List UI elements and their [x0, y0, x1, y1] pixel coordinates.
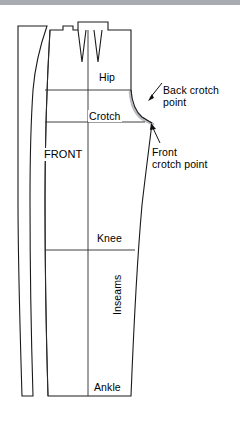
- label-crotch: Crotch: [88, 110, 122, 122]
- front-crotch-line2: crotch point: [152, 158, 207, 170]
- label-front-crotch-point: Front crotch point: [152, 146, 207, 171]
- label-back-crotch-point: Back crotch point: [163, 84, 219, 109]
- label-inseams: Inseams: [111, 274, 123, 316]
- back-crotch-curve-shadow: [130, 92, 153, 124]
- front-crotch-leader: [150, 123, 160, 143]
- dart-right: [94, 30, 102, 62]
- label-front: FRONT: [43, 148, 83, 161]
- front-crotch-line1: Front: [152, 146, 177, 158]
- label-hip: Hip: [98, 71, 116, 83]
- side-seam-line: [45, 30, 50, 396]
- pattern-svg: [0, 0, 240, 426]
- pattern-diagram: Hip Crotch FRONT Knee Ankle Inseams Back…: [0, 0, 240, 426]
- label-ankle: Ankle: [93, 381, 122, 393]
- label-knee: Knee: [96, 232, 123, 244]
- back-crotch-line1: Back crotch: [163, 84, 219, 96]
- back-crotch-leader: [148, 83, 162, 101]
- dart-left: [78, 30, 86, 62]
- back-crotch-line2: point: [163, 96, 186, 108]
- outer-back-outline: [18, 26, 47, 396]
